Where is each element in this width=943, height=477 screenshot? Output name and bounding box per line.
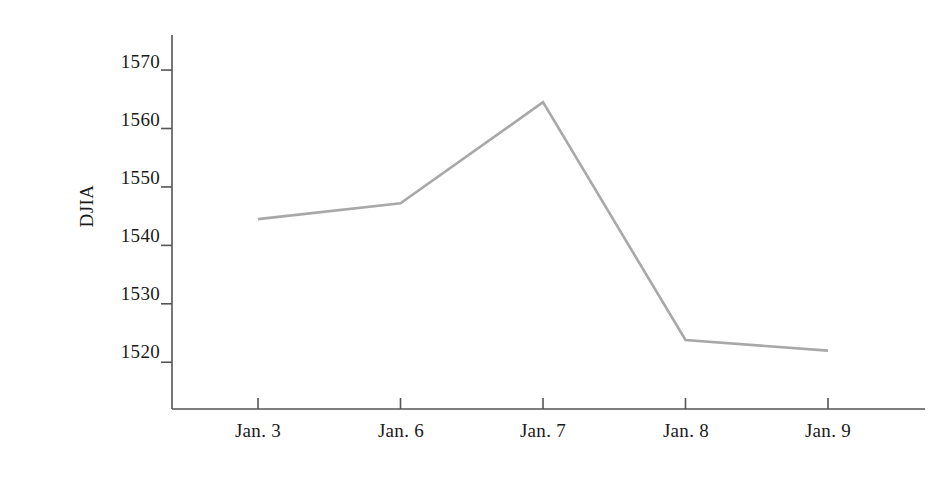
line-chart: DJIA 1570 1560 1550 1540 1530 1520 Jan. … bbox=[0, 0, 943, 477]
y-axis-ticks bbox=[161, 70, 172, 362]
data-series-line bbox=[258, 102, 828, 350]
plot-area bbox=[0, 0, 943, 477]
x-axis-ticks bbox=[258, 398, 828, 409]
